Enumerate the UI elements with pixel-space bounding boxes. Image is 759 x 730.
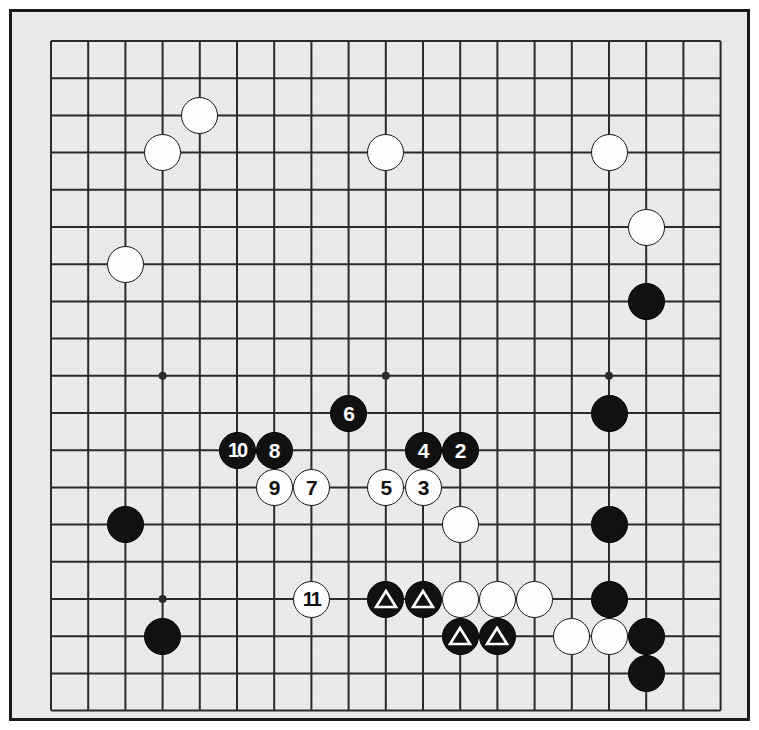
stone-move-number: 6 (343, 403, 354, 424)
stone-black[interactable] (591, 506, 628, 543)
stone-black-6[interactable]: 6 (330, 395, 367, 432)
stone-white-5[interactable]: 5 (367, 469, 404, 506)
stone-white[interactable] (144, 134, 181, 171)
stone-black-10[interactable]: 10 (219, 432, 256, 469)
stone-white[interactable] (628, 209, 665, 246)
stone-black-4[interactable]: 4 (405, 432, 442, 469)
stone-black[interactable] (591, 395, 628, 432)
stone-white-11[interactable]: 11 (293, 581, 330, 618)
stone-move-number: 10 (228, 440, 246, 460)
stone-white-7[interactable]: 7 (293, 469, 330, 506)
stone-white[interactable] (442, 581, 479, 618)
stone-white[interactable] (479, 581, 516, 618)
stone-black[interactable] (591, 581, 628, 618)
stone-move-number: 2 (455, 440, 466, 461)
stone-move-number: 7 (306, 477, 317, 498)
stone-black[interactable] (628, 655, 665, 692)
stone-black[interactable] (479, 618, 516, 655)
triangle-marker-icon (411, 588, 435, 610)
stone-move-number: 9 (269, 477, 280, 498)
stone-move-number: 11 (303, 589, 320, 609)
stone-white[interactable] (516, 581, 553, 618)
stone-move-number: 3 (418, 477, 429, 498)
stone-black-2[interactable]: 2 (442, 432, 479, 469)
stone-move-number: 5 (380, 477, 391, 498)
go-board: 610842975311 (9, 9, 750, 721)
stone-white[interactable] (591, 618, 628, 655)
stone-black[interactable] (405, 581, 442, 618)
stone-white[interactable] (107, 246, 144, 283)
triangle-marker-icon (448, 625, 472, 647)
stone-black[interactable] (144, 618, 181, 655)
stone-black-8[interactable]: 8 (256, 432, 293, 469)
triangle-marker-icon (374, 588, 398, 610)
stone-white[interactable] (442, 506, 479, 543)
stone-move-number: 4 (418, 440, 429, 461)
stone-white-3[interactable]: 3 (405, 469, 442, 506)
stone-white[interactable] (553, 618, 590, 655)
triangle-marker-icon (485, 625, 509, 647)
stone-white[interactable] (591, 134, 628, 171)
stone-white[interactable] (181, 97, 218, 134)
stone-black[interactable] (367, 581, 404, 618)
stone-black[interactable] (628, 618, 665, 655)
stone-black[interactable] (442, 618, 479, 655)
stone-white-9[interactable]: 9 (256, 469, 293, 506)
stone-move-number: 8 (269, 440, 280, 461)
stone-black[interactable] (107, 506, 144, 543)
stone-black[interactable] (628, 283, 665, 320)
